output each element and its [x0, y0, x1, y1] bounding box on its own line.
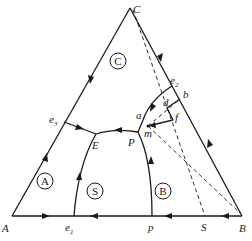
point-label-b: b [183, 88, 189, 100]
point-label-e3: e3 [49, 113, 58, 128]
edge-AC [12, 8, 130, 216]
arrow-icon [207, 139, 213, 148]
join-m-B [148, 126, 240, 213]
arrow-icon [150, 103, 156, 112]
arrow-icon [164, 213, 172, 219]
arrow-icon [75, 124, 84, 130]
arrow-icon [90, 213, 98, 219]
curve-p-P [138, 132, 152, 216]
region-label-S: S [92, 185, 98, 197]
point-label-P: P [127, 136, 135, 148]
arrow-icon [148, 156, 154, 164]
region-label-C: C [114, 55, 121, 67]
point-labels: A B C e1 e2 e3 E P p S a b d f m [1, 3, 246, 236]
arrow-icon [221, 213, 229, 219]
point-label-e1: e1 [65, 221, 73, 236]
point-label-S: S [201, 221, 207, 233]
point-label-m: m [144, 127, 152, 139]
region-label-B: B [159, 185, 166, 197]
point-label-E: E [91, 139, 99, 151]
vertex-label-A: A [1, 222, 9, 234]
point-label-d: d [163, 96, 169, 108]
region-label-A: A [41, 175, 49, 187]
ternary-phase-diagram: C A S B A B C e1 e2 e3 E P p S a b d f m [0, 0, 252, 241]
point-label-f: f [175, 111, 180, 123]
vertex-label-B: B [239, 222, 246, 234]
arrow-icon [114, 127, 122, 133]
point-label-a: a [136, 109, 142, 121]
arrows [42, 53, 229, 219]
point-label-p: p [147, 221, 154, 233]
arrow-icon [42, 213, 50, 219]
vertex-label-C: C [133, 3, 141, 15]
